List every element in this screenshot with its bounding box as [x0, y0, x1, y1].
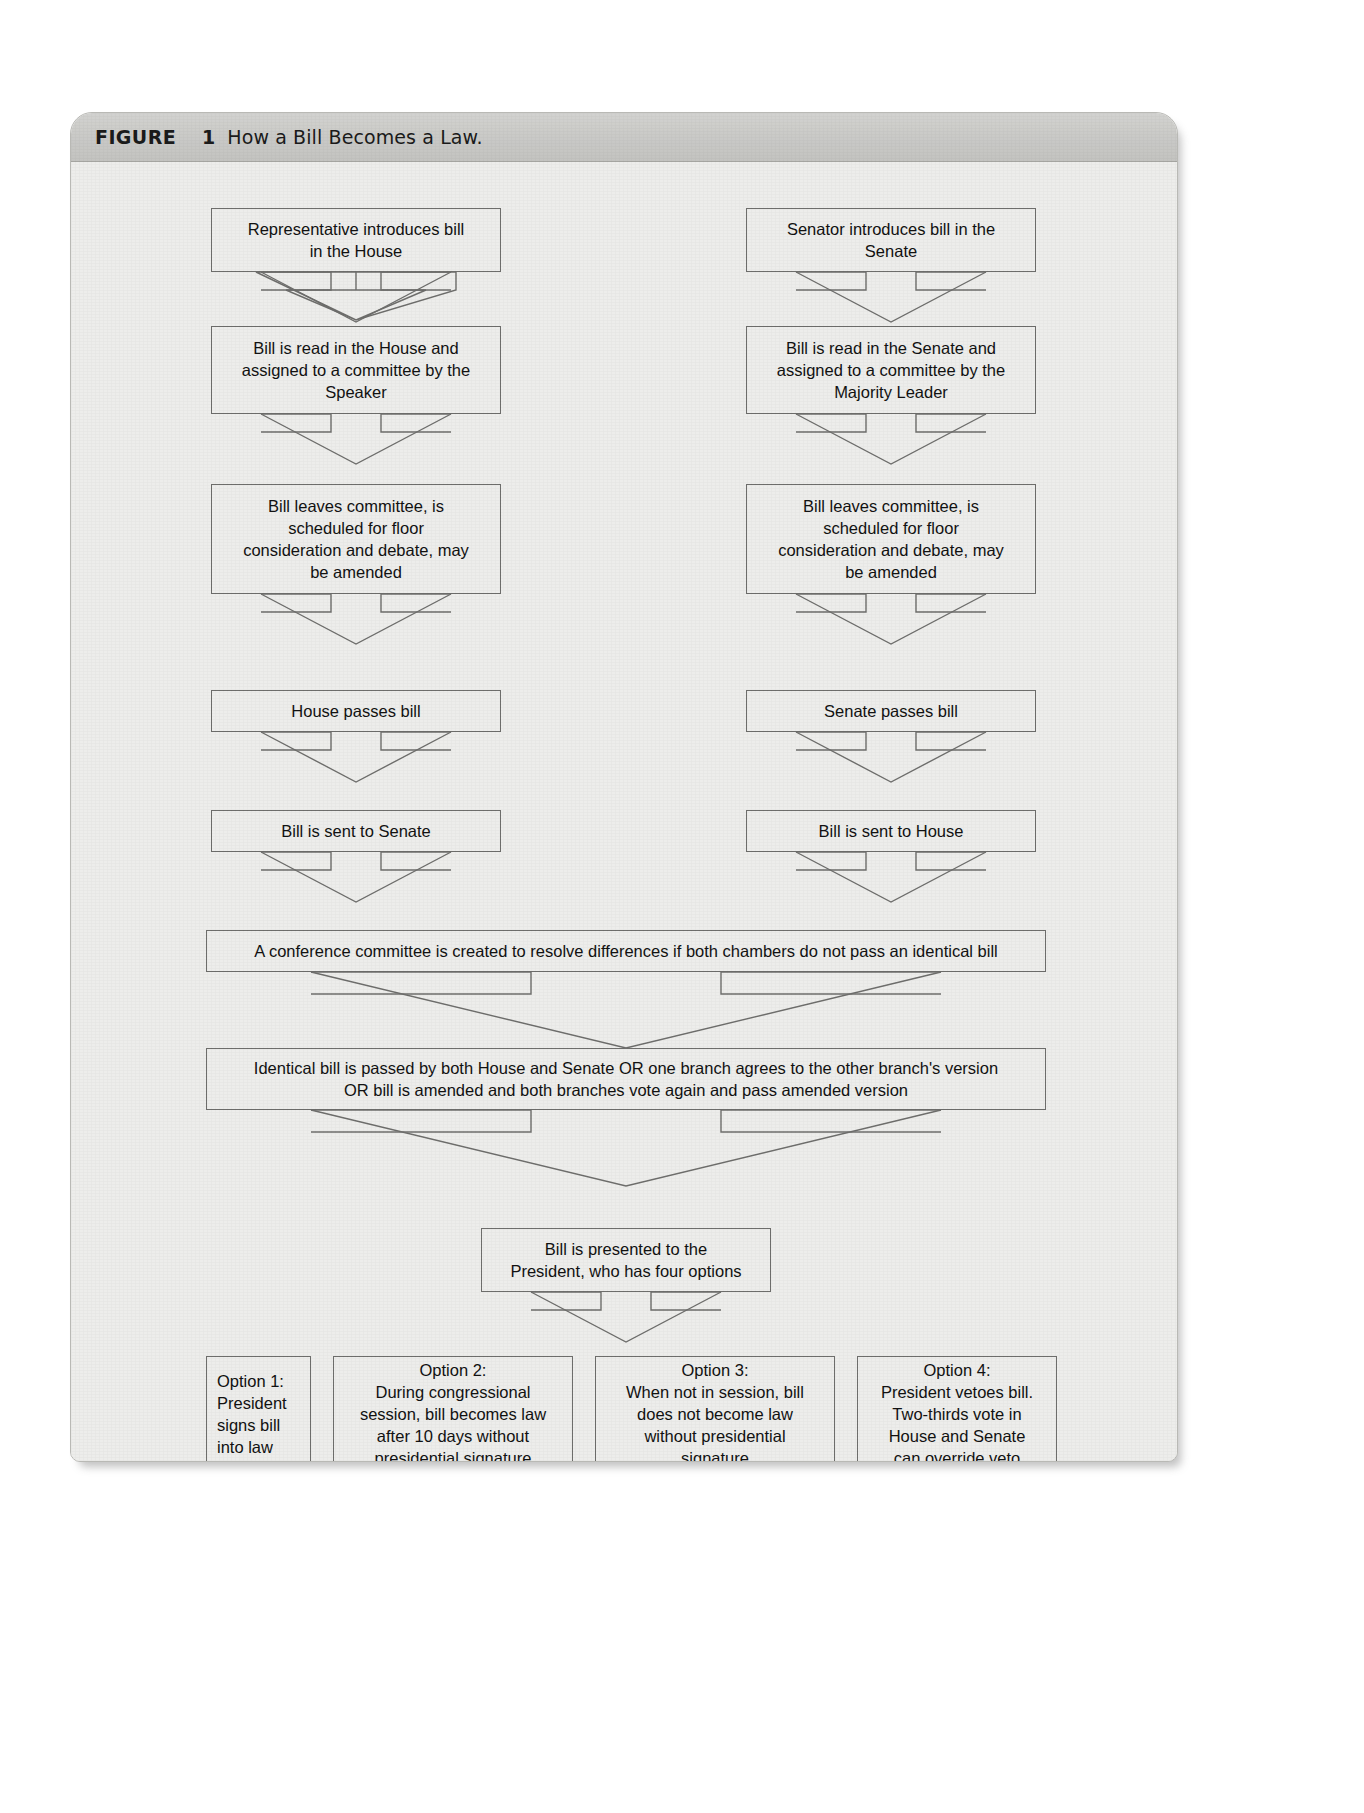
node-option-4: Option 4: President vetoes bill. Two-thi… [857, 1356, 1057, 1462]
node-option-2: Option 2: During congressional session, … [333, 1356, 573, 1462]
node-option-3: Option 3: When not in session, bill does… [595, 1356, 835, 1462]
node-identical-bill: Identical bill is passed by both House a… [206, 1048, 1046, 1110]
node-president-options: Bill is presented to the President, who … [481, 1228, 771, 1292]
node-house-passes: House passes bill [211, 690, 501, 732]
node-house-intro: Representative introduces bill in the Ho… [211, 208, 501, 272]
arrow-house-a [261, 272, 451, 322]
figure-panel: FIGURE 1 How a Bill Becomes a Law. [70, 112, 1178, 1462]
arrow-wide-conference [311, 972, 941, 1048]
node-house-read: Bill is read in the House and assigned t… [211, 326, 501, 414]
figure-label: FIGURE [95, 126, 176, 148]
arrow-president [531, 1292, 721, 1342]
arrow-senate-a [796, 272, 986, 322]
node-house-sent: Bill is sent to Senate [211, 810, 501, 852]
arrow-senate-d [796, 732, 986, 782]
figure-number: 1 [202, 126, 215, 148]
flowchart-canvas: Representative introduces bill in the Ho… [71, 162, 1177, 1461]
node-senate-read: Bill is read in the Senate and assigned … [746, 326, 1036, 414]
flow-arrow-house-1 [256, 272, 456, 320]
node-senate-passes: Senate passes bill [746, 690, 1036, 732]
figure-title: How a Bill Becomes a Law. [227, 126, 482, 148]
node-option-1: Option 1: President signs bill into law [206, 1356, 311, 1462]
arrow-house-e [261, 852, 451, 902]
figure-header: FIGURE 1 How a Bill Becomes a Law. [71, 113, 1177, 162]
arrow-house-b [261, 414, 451, 464]
node-house-committee: Bill leaves committee, is scheduled for … [211, 484, 501, 594]
arrow-house-c [261, 594, 451, 644]
arrow-house-d [261, 732, 451, 782]
node-conference-committee: A conference committee is created to res… [206, 930, 1046, 972]
arrow-wide-identical [311, 1110, 941, 1186]
arrow-senate-b [796, 414, 986, 464]
arrow-senate-e [796, 852, 986, 902]
node-senate-committee: Bill leaves committee, is scheduled for … [746, 484, 1036, 594]
node-senate-intro: Senator introduces bill in the Senate [746, 208, 1036, 272]
arrow-senate-c [796, 594, 986, 644]
node-senate-sent: Bill is sent to House [746, 810, 1036, 852]
